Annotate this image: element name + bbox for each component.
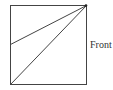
line-to-left-mid <box>11 6 87 45</box>
diagonal-to-bottom-left <box>11 6 87 85</box>
front-label: Front <box>90 39 112 51</box>
top-right-vertex-dot <box>85 4 88 7</box>
